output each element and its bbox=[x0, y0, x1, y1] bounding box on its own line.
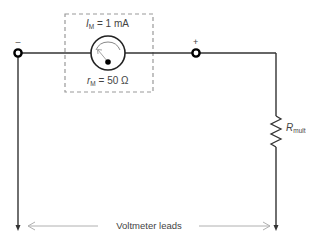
circuit-diagram: IM = 1 mA rM = 50 Ω – + Rmult Voltmeter … bbox=[0, 0, 317, 241]
positive-polarity-label: + bbox=[193, 37, 198, 47]
right-lead-arrow-icon bbox=[274, 225, 279, 231]
negative-terminal bbox=[14, 49, 21, 56]
voltmeter-leads-label: Voltmeter leads bbox=[116, 220, 182, 231]
multiplier-resistor bbox=[271, 116, 281, 147]
resistor-label: Rmult bbox=[286, 122, 306, 134]
negative-polarity-label: – bbox=[16, 37, 21, 47]
meter-current-label: IM = 1 mA bbox=[86, 18, 129, 30]
meter-icon bbox=[91, 36, 125, 70]
positive-terminal bbox=[192, 49, 199, 56]
left-lead-arrow-icon bbox=[16, 225, 21, 231]
meter-resistance-label: rM = 50 Ω bbox=[87, 75, 129, 87]
